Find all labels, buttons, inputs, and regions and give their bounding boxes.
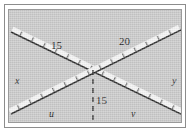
label-side-y: y (172, 76, 176, 86)
geometry-figure: 15 20 15 x y u v (0, 0, 190, 132)
label-side-x: x (15, 76, 19, 86)
label-left-segment-length: 15 (51, 40, 62, 51)
label-bottom-u: u (49, 109, 54, 119)
label-vertical-segment-length: 15 (96, 95, 107, 106)
label-bottom-v: v (131, 109, 135, 119)
label-right-segment-length: 20 (119, 36, 130, 47)
figure-plate: 15 20 15 x y u v (8, 9, 182, 123)
diagram-vector-layer (9, 10, 182, 123)
